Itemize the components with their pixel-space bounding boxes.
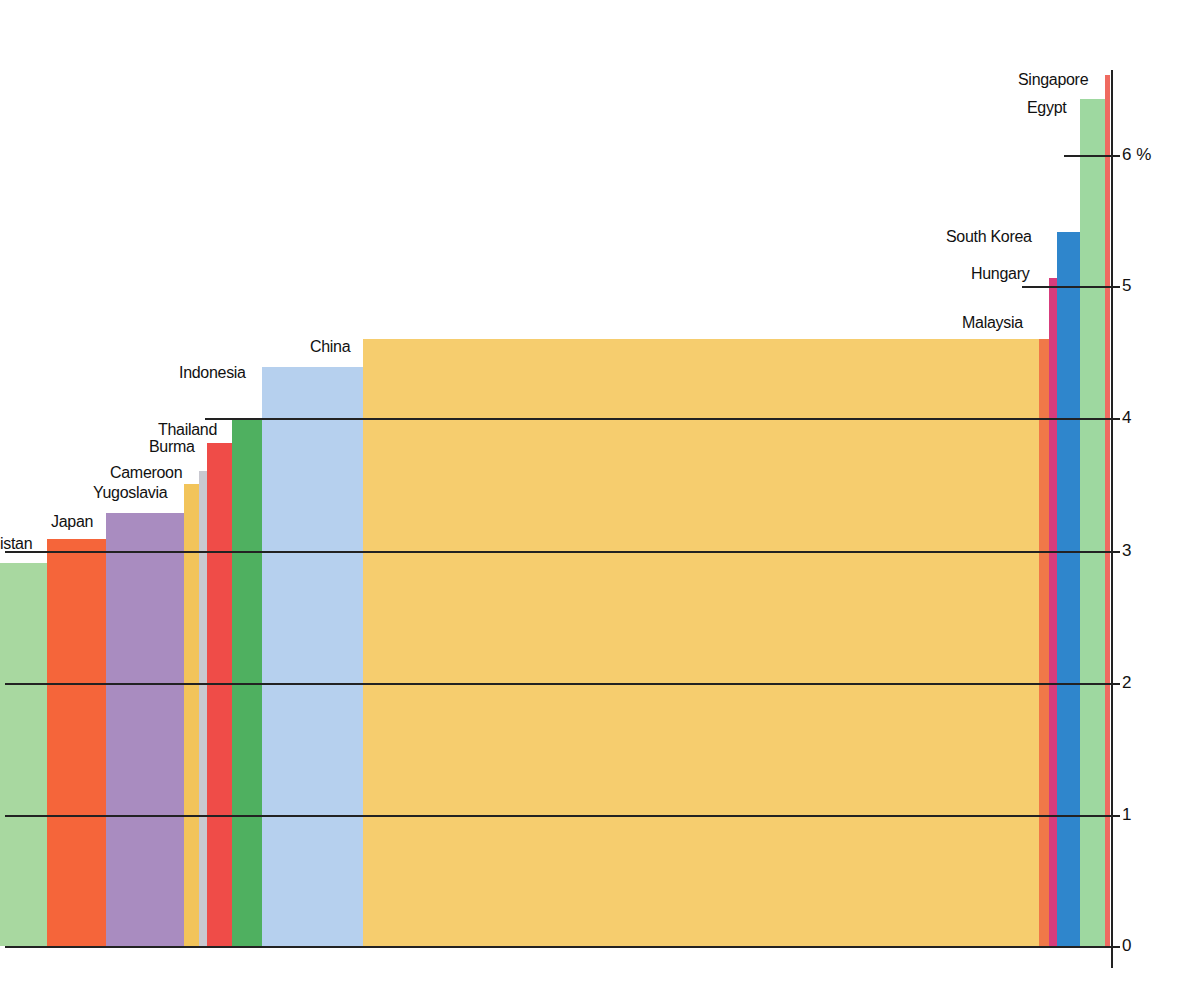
bar-label: Singapore — [1018, 71, 1088, 89]
bar-yugoslavia — [184, 484, 199, 946]
gridline-2 — [5, 683, 1120, 685]
bar-label: Malaysia — [962, 314, 1023, 332]
y-tick-label: 4 — [1122, 408, 1131, 428]
gridline-3 — [5, 551, 1120, 553]
bar-label: Indonesia — [179, 364, 246, 382]
bar-indonesia — [262, 367, 363, 946]
bar-cameroon — [199, 471, 207, 946]
bar-label: Cameroon — [110, 464, 182, 482]
gridline-0 — [5, 946, 1120, 948]
y-tick-label: 6 % — [1122, 145, 1151, 165]
bar-label: China — [310, 338, 350, 356]
bar-label: South Korea — [946, 228, 1032, 246]
gridline-5 — [1022, 286, 1120, 288]
bar-malaysia — [1039, 339, 1049, 946]
bar-istan — [0, 563, 47, 946]
bar-label: Yugoslavia — [93, 484, 167, 502]
bar-burma — [207, 443, 232, 946]
y-tick-label: 3 — [1122, 541, 1131, 561]
bar-label: istan — [0, 535, 32, 553]
y-tick-label: 1 — [1122, 805, 1131, 825]
gridline-1 — [5, 815, 1120, 817]
bar-south-korea — [1057, 232, 1080, 946]
bar-label: Thailand — [158, 421, 217, 439]
bar-hungary — [1049, 278, 1057, 946]
bar-china — [363, 339, 1039, 946]
bar-unlabeled — [106, 513, 184, 946]
bar-label: Hungary — [971, 265, 1029, 283]
bar-label: Egypt — [1027, 99, 1066, 117]
bar-label: Japan — [51, 513, 93, 531]
bar-egypt — [1080, 99, 1105, 946]
y-axis-line — [1111, 70, 1113, 968]
bar-japan — [47, 539, 106, 946]
y-tick-label: 0 — [1122, 936, 1131, 956]
y-tick-label: 5 — [1122, 276, 1131, 296]
bar-label: Burma — [149, 438, 195, 456]
y-tick-label: 2 — [1122, 673, 1131, 693]
gridline-4 — [205, 418, 1120, 420]
